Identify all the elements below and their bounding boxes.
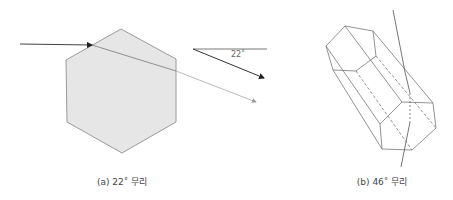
light-ray-exit [401,122,410,167]
prism-top-face [326,26,376,71]
prism-hidden-edge [376,56,436,128]
figure-b [326,10,436,167]
caption-b: (b) 46˚ 무리 [357,175,407,188]
light-ray-path [393,10,410,93]
hexagon-crystal [66,29,176,153]
angle-deviation-arrow [193,49,264,78]
diagram-canvas [0,0,453,200]
prism-edge [326,46,380,124]
incident-ray [20,44,92,45]
angle-label-22: 22˚ [231,50,245,59]
exit-ray [176,71,256,102]
prism-hidden-edge [356,71,412,150]
prism-edge [373,31,433,103]
prism-edge [333,70,382,149]
figure-a [20,29,267,153]
prism-bottom-face [380,102,436,150]
caption-a: (a) 22˚ 무리 [97,175,147,188]
